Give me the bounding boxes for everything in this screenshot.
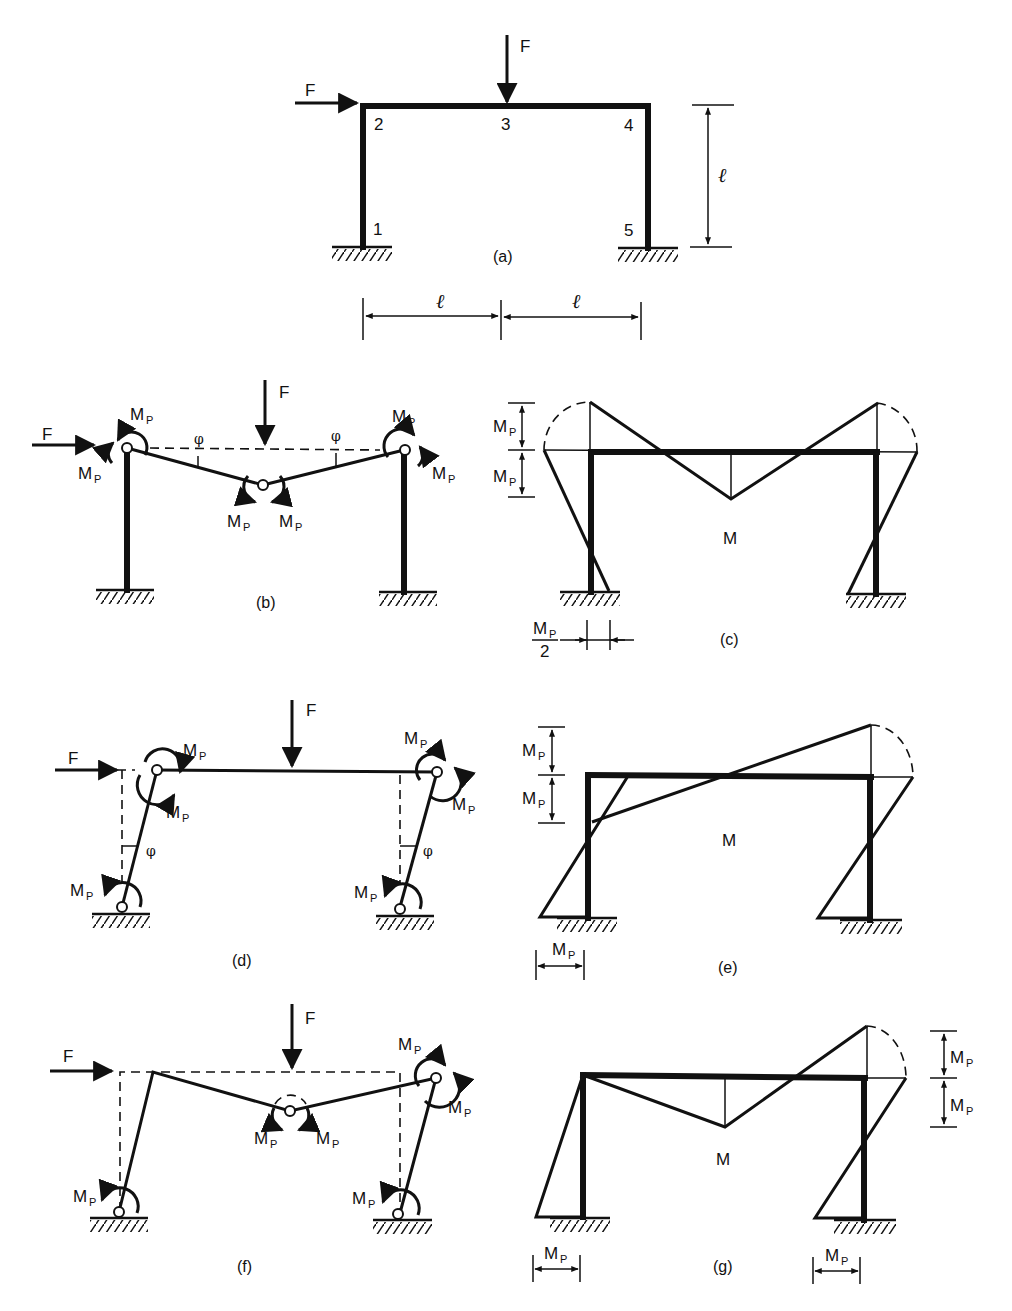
svg-text:M: M [522, 741, 536, 760]
svg-text:P: P [568, 949, 575, 961]
moment-arrow-icon [108, 443, 113, 463]
fixed-support-icon [92, 914, 150, 928]
moment-label: MP [354, 883, 377, 904]
angle-label: φ [194, 431, 204, 447]
svg-text:P: P [295, 521, 302, 533]
caption-g: (g) [713, 1258, 733, 1275]
moment-label: MP [183, 741, 206, 762]
svg-text:M: M [316, 1129, 330, 1148]
svg-text:M: M [544, 1244, 558, 1263]
moment-label: MP [70, 881, 93, 902]
svg-text:P: P [370, 892, 377, 904]
plastic-hinge-icon [432, 767, 442, 777]
node-label: 4 [624, 116, 633, 135]
moment-arrow-icon [272, 1108, 282, 1130]
svg-text:P: P [332, 1138, 339, 1150]
svg-text:M: M [70, 881, 84, 900]
fixed-support-icon [550, 1218, 610, 1232]
svg-text:P: P [86, 890, 93, 902]
svg-text:M: M [78, 464, 92, 483]
portal-frame-figure: F F 2 3 4 1 5 ℓ ℓ ℓ (a) F [0, 0, 1012, 1311]
svg-text:P: P [549, 628, 556, 640]
svg-text:M: M [279, 512, 293, 531]
svg-text:M: M [254, 1129, 268, 1148]
moment-label: MP [254, 1129, 277, 1150]
svg-text:P: P [464, 1107, 471, 1119]
moment-label: MP [166, 803, 189, 824]
svg-text:M: M [493, 467, 507, 486]
svg-text:P: P [146, 414, 153, 426]
svg-text:M: M [493, 417, 507, 436]
moment-label: MP [392, 407, 415, 428]
svg-text:P: P [509, 476, 516, 488]
moment-label: MP [78, 464, 101, 485]
svg-text:P: P [182, 812, 189, 824]
plastic-hinge-icon [431, 1073, 441, 1083]
svg-text:P: P [560, 1253, 567, 1265]
panel-e-moment-diagram [536, 725, 913, 980]
moment-label: MP [544, 1244, 567, 1265]
node-label: 5 [624, 221, 633, 240]
svg-text:M: M [432, 464, 446, 483]
load-label: F [279, 383, 289, 402]
load-label: F [42, 425, 52, 444]
node-label: 1 [373, 220, 382, 239]
svg-text:M: M [352, 1189, 366, 1208]
plastic-hinge-icon [114, 1207, 124, 1217]
caption-c: (c) [720, 631, 739, 648]
height-label: ℓ [718, 164, 727, 186]
moment-label: MP [398, 1035, 421, 1056]
svg-text:M: M [404, 729, 418, 748]
fixed-support-icon [332, 247, 392, 261]
svg-text:P: P [199, 750, 206, 762]
moment-label: MP [448, 1098, 471, 1119]
svg-text:P: P [368, 1198, 375, 1210]
moment-label: MP [404, 729, 427, 750]
plastic-hinge-icon [395, 904, 405, 914]
moment-label: MP [825, 1246, 848, 1267]
svg-text:2: 2 [540, 642, 549, 661]
plastic-hinge-icon [258, 480, 268, 490]
caption-d: (d) [232, 952, 252, 969]
moment-label: MP [552, 940, 575, 961]
fixed-support-icon [840, 920, 902, 934]
svg-text:P: P [538, 750, 545, 762]
moment-label: MP [452, 795, 475, 816]
fixed-support-icon [618, 248, 678, 262]
plastic-hinge-icon [400, 445, 410, 455]
load-label: F [68, 749, 78, 768]
svg-text:P: P [468, 804, 475, 816]
svg-text:M: M [950, 1048, 964, 1067]
svg-text:P: P [448, 473, 455, 485]
node-label: 3 [501, 115, 510, 134]
panel-c-moment-diagram [508, 402, 918, 650]
moment-label: MP [522, 741, 545, 762]
svg-text:P: P [408, 416, 415, 428]
moment-label: MP [950, 1096, 973, 1117]
span-label: ℓ [436, 290, 445, 312]
svg-text:P: P [509, 426, 516, 438]
svg-text:M: M [166, 803, 180, 822]
caption-e: (e) [718, 959, 738, 976]
svg-text:P: P [270, 1138, 277, 1150]
moment-arrow-icon [418, 447, 423, 466]
svg-text:M: M [398, 1035, 412, 1054]
panel-g-moment-diagram [533, 1026, 957, 1284]
fixed-support-icon [834, 1220, 896, 1234]
svg-text:P: P [538, 798, 545, 810]
angle-label: φ [146, 843, 156, 859]
plastic-hinge-icon [285, 1106, 295, 1116]
caption-b: (b) [256, 594, 276, 611]
panel-a-frame [295, 35, 734, 340]
svg-text:M: M [533, 619, 547, 638]
svg-text:M: M [950, 1096, 964, 1115]
span-label: ℓ [572, 290, 581, 312]
svg-text:P: P [243, 521, 250, 533]
fixed-support-icon [373, 1220, 432, 1234]
fixed-support-icon [846, 594, 906, 608]
fixed-support-icon [376, 916, 434, 930]
diagram-label: M [716, 1150, 730, 1169]
moment-label: MP [130, 405, 153, 426]
load-label: F [305, 1009, 315, 1028]
load-label: F [306, 701, 316, 720]
